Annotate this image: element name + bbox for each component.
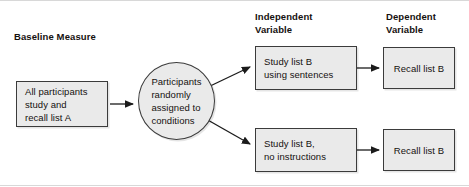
independent-variable-header: Independent Variable <box>255 11 313 36</box>
node-condition-2-independent-variable: Study list B, no instructions <box>255 128 357 172</box>
connector-assignment-to-condition-2 <box>206 119 250 144</box>
node-baseline-measure: All participants study and recall list A <box>16 81 108 127</box>
baseline-measure-label: Baseline Measure <box>14 31 96 43</box>
node-random-assignment-text: Participants randomly assigned to condit… <box>151 75 201 127</box>
figure-top-rule <box>0 0 469 1</box>
connector-assignment-to-condition-1 <box>206 67 250 88</box>
experiment-flow-diagram: Baseline Measure Independent Variable De… <box>0 0 469 187</box>
node-condition-2-dependent-variable-text: Recall list B <box>384 144 454 157</box>
dependent-variable-header: Dependent Variable <box>386 11 436 36</box>
node-baseline-measure-text: All participants study and recall list A <box>17 85 92 124</box>
node-condition-1-independent-variable: Study list B using sentences <box>255 46 357 90</box>
figure-bottom-rule <box>0 185 469 186</box>
node-condition-2-dependent-variable: Recall list B <box>383 129 455 171</box>
node-condition-1-dependent-variable-text: Recall list B <box>384 62 454 75</box>
node-condition-1-independent-variable-text: Study list B using sentences <box>256 55 337 81</box>
node-condition-1-dependent-variable: Recall list B <box>383 47 455 89</box>
node-condition-2-independent-variable-text: Study list B, no instructions <box>256 137 330 163</box>
node-random-assignment: Participants randomly assigned to condit… <box>138 62 215 140</box>
